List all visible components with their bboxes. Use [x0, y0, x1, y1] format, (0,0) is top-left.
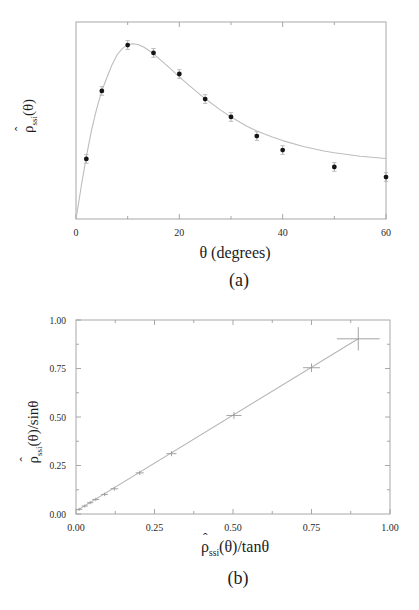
- panel-a-x-axis-label: θ (degrees): [199, 245, 270, 261]
- panel-b-x-axis-label: ˆρssi(θ)/tanθ: [201, 539, 269, 558]
- svg-text:1.00: 1.00: [49, 316, 66, 326]
- svg-text:1.00: 1.00: [381, 522, 399, 533]
- panel-b-y-axis-label: ˆρssi(θ)/sinθ: [26, 400, 44, 463]
- svg-text:0.00: 0.00: [67, 522, 85, 533]
- svg-text:0: 0: [74, 227, 79, 238]
- svg-text:0.50: 0.50: [224, 522, 242, 533]
- svg-text:60: 60: [381, 227, 391, 238]
- plots-svg: 02040600.000.250.500.751.000.000.250.500…: [0, 0, 419, 610]
- svg-text:0.75: 0.75: [303, 522, 321, 533]
- panel-a-y-axis-label: ˆρssi(θ): [21, 99, 39, 133]
- svg-text:0.75: 0.75: [49, 364, 66, 374]
- svg-text:40: 40: [278, 227, 288, 238]
- svg-text:0.25: 0.25: [146, 522, 164, 533]
- panel-a-caption: (a): [229, 271, 249, 289]
- svg-text:0.00: 0.00: [49, 510, 66, 520]
- panel-b-caption: (b): [228, 569, 249, 587]
- rho-hat-symbol: ˆρ: [26, 456, 41, 464]
- svg-text:20: 20: [174, 227, 184, 238]
- rho-hat-symbol: ˆρ: [21, 126, 36, 134]
- svg-text:0.50: 0.50: [49, 413, 66, 423]
- svg-text:0.25: 0.25: [49, 461, 66, 471]
- rho-hat-symbol: ˆρ: [201, 539, 209, 555]
- paper-figure: 02040600.000.250.500.751.000.000.250.500…: [0, 0, 419, 610]
